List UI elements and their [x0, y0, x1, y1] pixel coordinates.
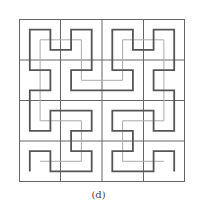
figure-caption: (d)	[0, 189, 197, 200]
grid	[20, 20, 185, 182]
hilbert-diagram	[0, 0, 197, 214]
